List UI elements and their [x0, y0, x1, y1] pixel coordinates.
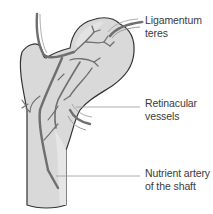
label-retinacular-vessels: Retinacular vessels — [145, 97, 197, 123]
label-line: Retinacular — [145, 97, 197, 110]
label-line: Nutrient artery — [145, 167, 210, 180]
label-line: teres — [145, 27, 202, 40]
label-ligamentum-teres: Ligamentum teres — [145, 14, 202, 40]
femur-bone — [20, 18, 134, 208]
label-line: of the shaft — [145, 180, 210, 193]
label-nutrient-artery: Nutrient artery of the shaft — [145, 167, 210, 193]
label-line: Ligamentum — [145, 14, 202, 27]
label-line: vessels — [145, 110, 197, 123]
